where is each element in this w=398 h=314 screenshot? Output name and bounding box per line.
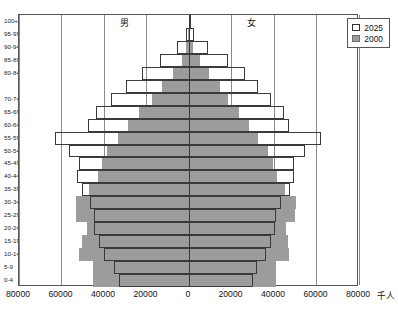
bar-2025-male bbox=[142, 67, 190, 80]
bar-2025-male bbox=[126, 80, 190, 93]
bar-2025-male bbox=[94, 209, 190, 222]
bar-2025-female bbox=[189, 196, 281, 209]
x-axis-tick-label: 60000 bbox=[49, 289, 73, 299]
bar-2025-male bbox=[82, 183, 190, 196]
bar-row bbox=[19, 274, 357, 287]
x-axis-unit: 千人 bbox=[377, 289, 395, 301]
bar-row bbox=[19, 93, 357, 106]
bar-row bbox=[19, 15, 357, 28]
bar-2025-male bbox=[114, 261, 190, 274]
legend-swatch-outlined-icon bbox=[352, 24, 360, 31]
bar-2025-male bbox=[88, 119, 190, 132]
bar-row bbox=[19, 67, 357, 80]
bar-rows bbox=[19, 15, 357, 285]
bar-2025-female bbox=[189, 41, 208, 54]
x-axis-tick-label: 80000 bbox=[346, 289, 370, 299]
bar-2025-female bbox=[189, 145, 305, 158]
x-axis-tick-label: 20000 bbox=[219, 289, 243, 299]
bar-2025-female bbox=[189, 106, 284, 119]
legend-swatch-filled-icon bbox=[352, 35, 360, 42]
population-pyramid-chart: 100+95-9990-9485-8980-8470-7465-6960-645… bbox=[0, 0, 398, 314]
bar-2025-male bbox=[79, 157, 191, 170]
bar-row bbox=[19, 196, 357, 209]
legend-item-2000: 2000 bbox=[352, 33, 383, 44]
bar-row bbox=[19, 145, 357, 158]
bar-2025-male bbox=[77, 170, 190, 183]
male-label: 男 bbox=[120, 16, 129, 29]
bar-2025-male bbox=[90, 196, 190, 209]
bar-row bbox=[19, 106, 357, 119]
bar-2025-male bbox=[104, 248, 190, 261]
bar-2025-male bbox=[99, 235, 190, 248]
x-axis-labels: 千人 8000060000400002000002000040000600008… bbox=[0, 289, 398, 303]
female-label: 女 bbox=[247, 16, 256, 29]
bar-row bbox=[19, 248, 357, 261]
x-axis-tick-label: 60000 bbox=[304, 289, 328, 299]
bar-row bbox=[19, 170, 357, 183]
x-axis-tick-label: 40000 bbox=[261, 289, 285, 299]
plot-area bbox=[18, 14, 358, 286]
x-axis-tick-label: 0 bbox=[186, 289, 191, 299]
y-axis-age-labels: 100+95-9990-9485-8980-8470-7465-6960-645… bbox=[0, 14, 18, 286]
bar-2025-female bbox=[189, 54, 228, 67]
bar-row bbox=[19, 183, 357, 196]
bar-row bbox=[19, 235, 357, 248]
bar-2025-female bbox=[189, 157, 294, 170]
bar-2025-male bbox=[160, 54, 190, 67]
bar-row bbox=[19, 41, 357, 54]
bar-2025-female bbox=[189, 248, 266, 261]
bar-2025-male bbox=[111, 93, 190, 106]
bar-2025-female bbox=[189, 235, 271, 248]
bar-2025-female bbox=[189, 28, 194, 41]
x-axis-tick-label: 80000 bbox=[6, 289, 30, 299]
bar-row bbox=[19, 132, 357, 145]
bar-2025-female bbox=[189, 80, 258, 93]
bar-2025-female bbox=[189, 132, 321, 145]
bar-2025-female bbox=[189, 222, 275, 235]
bar-2025-female bbox=[189, 183, 290, 196]
bar-2025-female bbox=[189, 261, 257, 274]
bar-2025-male bbox=[55, 132, 190, 145]
bar-row bbox=[19, 157, 357, 170]
legend-label-2025: 2025 bbox=[364, 23, 383, 33]
x-axis-tick-label: 20000 bbox=[134, 289, 158, 299]
bar-row bbox=[19, 209, 357, 222]
bar-2025-female bbox=[189, 15, 191, 28]
bar-2025-male bbox=[69, 145, 190, 158]
x-axis-tick-label: 40000 bbox=[91, 289, 115, 299]
bar-2025-female bbox=[189, 67, 245, 80]
bar-2025-female bbox=[189, 119, 289, 132]
bar-2025-female bbox=[189, 93, 271, 106]
bar-2025-female bbox=[189, 209, 276, 222]
gridline bbox=[359, 15, 360, 285]
bar-row bbox=[19, 119, 357, 132]
bar-2025-female bbox=[189, 170, 294, 183]
bar-2025-male bbox=[94, 222, 190, 235]
legend-label-2000: 2000 bbox=[364, 34, 383, 44]
legend: 2025 2000 bbox=[347, 18, 390, 48]
bar-2025-male bbox=[96, 106, 191, 119]
bar-row bbox=[19, 54, 357, 67]
legend-item-2025: 2025 bbox=[352, 22, 383, 33]
bar-2025-male bbox=[119, 274, 190, 287]
bar-row bbox=[19, 222, 357, 235]
bar-2025-female bbox=[189, 274, 253, 287]
bar-row bbox=[19, 28, 357, 41]
bar-row bbox=[19, 261, 357, 274]
bar-row bbox=[19, 80, 357, 93]
